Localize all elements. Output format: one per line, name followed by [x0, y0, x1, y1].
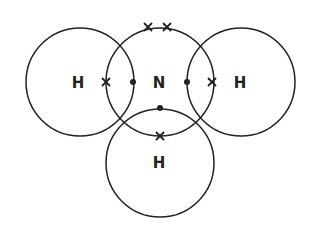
electron-dot-icon — [157, 105, 163, 111]
atom-label: N — [153, 74, 166, 92]
atom-label: H — [234, 74, 247, 92]
atom-label: H — [153, 154, 166, 172]
electron-shells — [26, 28, 295, 217]
electron-dot-icon — [184, 79, 190, 85]
atom-labels: HNHH — [72, 74, 247, 172]
atom-label: H — [72, 74, 85, 92]
electron-cross-icon — [164, 24, 171, 31]
electron-dot-icon — [130, 79, 136, 85]
ammonia-dot-cross-diagram: HNHH — [0, 0, 313, 230]
